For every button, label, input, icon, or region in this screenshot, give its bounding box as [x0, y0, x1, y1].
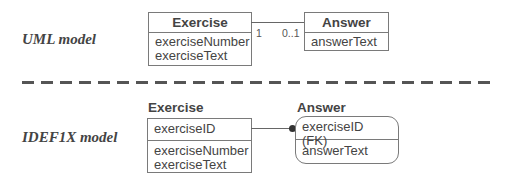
idef1x-exercise-attr: exerciseText	[154, 158, 245, 172]
uml-answer-attributes: answerText	[305, 32, 388, 49]
idef1x-relationship-line	[251, 128, 292, 129]
uml-exercise-class-name: Exercise	[149, 13, 251, 32]
idef1x-exercise-attr: exerciseNumber	[154, 144, 245, 158]
uml-exercise-attributes: exerciseNumber exerciseText	[149, 32, 251, 63]
uml-association-line	[251, 22, 304, 23]
uml-exercise-attr: exerciseText	[155, 49, 245, 63]
idef1x-exercise-key-area: exerciseID	[148, 119, 251, 140]
uml-answer-attr: answerText	[311, 35, 382, 49]
uml-multiplicity-answer: 0..1	[282, 27, 300, 39]
idef1x-model-label: IDEF1X model	[22, 129, 117, 146]
section-separator	[22, 81, 492, 84]
uml-exercise-class: Exercise exerciseNumber exerciseText	[148, 12, 252, 66]
uml-answer-class: Answer answerText	[304, 12, 389, 51]
uml-answer-class-name: Answer	[305, 13, 388, 32]
idef1x-exercise-key-attr: exerciseID	[154, 122, 245, 136]
uml-multiplicity-exercise: 1	[256, 27, 262, 39]
idef1x-exercise-entity-name: Exercise	[148, 100, 204, 115]
uml-exercise-attr: exerciseNumber	[155, 35, 245, 49]
idef1x-exercise-entity: exerciseID exerciseNumber exerciseText	[147, 118, 252, 173]
idef1x-answer-key-area: exerciseID (FK)	[296, 117, 398, 139]
idef1x-exercise-nonkey-area: exerciseNumber exerciseText	[148, 140, 251, 172]
uml-model-label: UML model	[22, 31, 96, 48]
idef1x-answer-entity: exerciseID (FK) answerText	[295, 116, 399, 164]
idef1x-answer-entity-name: Answer	[297, 100, 346, 115]
idef1x-answer-attr: answerText	[302, 144, 392, 158]
